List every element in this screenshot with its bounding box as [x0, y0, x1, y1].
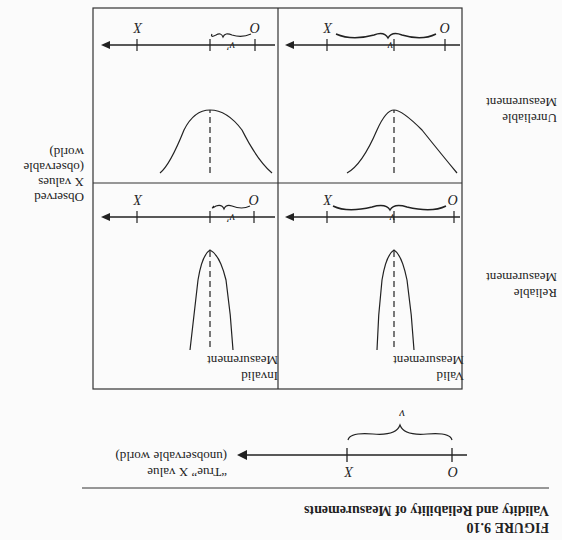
figure-title: Validity and Reliability of Measurements: [303, 503, 549, 518]
arrowhead-icon: [101, 41, 110, 49]
narrow-distribution-curve: [377, 250, 414, 350]
o-label: O: [250, 20, 260, 35]
brace-icon: [212, 205, 250, 209]
x-label: X: [133, 20, 143, 35]
wide-distribution-curve: [347, 110, 457, 173]
o-label: O: [448, 192, 458, 207]
panel-invalid-unreliable: O X v′: [101, 20, 275, 173]
panel-valid-unreliable: O X v: [285, 20, 460, 173]
arrowhead-icon: [237, 450, 247, 460]
diagram-canvas: FIGURE 9.10 Validity and Reliability of …: [0, 0, 562, 540]
brace-icon: [348, 425, 452, 440]
figure-number: FIGURE 9.10: [467, 520, 549, 535]
o-label: O: [249, 192, 259, 207]
panel-invalid-reliable: O X v′: [101, 192, 275, 350]
v-prime-label: v′: [227, 211, 235, 225]
observed-label-line3: (observable: [23, 160, 84, 175]
brace-icon: [212, 34, 252, 37]
observed-label-line2: X values: [38, 175, 84, 190]
narrow-distribution-curve: [190, 250, 233, 350]
brace-icon: [336, 34, 436, 38]
brace-icon: [333, 206, 446, 210]
x-label: X: [323, 192, 333, 207]
v-prime-label: v′: [227, 39, 235, 53]
v-label: v: [399, 407, 405, 422]
o-label: O: [440, 20, 450, 35]
panel-valid-reliable: O X v: [285, 192, 460, 350]
observed-label-line4: world): [49, 145, 84, 160]
invalid-header-line2: Measurement: [207, 353, 278, 368]
true-value-line: O X v “True” X value (unobservable world…: [115, 407, 467, 480]
x-label: X: [344, 464, 354, 479]
figure-9-10: FIGURE 9.10 Validity and Reliability of …: [0, 0, 562, 540]
x-label: X: [133, 192, 143, 207]
valid-header-line1: Valid: [436, 369, 464, 384]
o-label: O: [448, 464, 458, 479]
reliable-header-line1: Reliable: [513, 286, 557, 301]
v-label: v: [387, 39, 393, 53]
x-label: X: [323, 20, 333, 35]
invalid-header-line1: Invalid: [241, 369, 278, 384]
arrowhead-icon: [285, 213, 294, 221]
unobservable-label: (unobservable world): [115, 449, 227, 464]
wide-distribution-curve: [160, 110, 272, 173]
arrowhead-icon: [285, 41, 294, 49]
v-label: v: [389, 211, 395, 225]
valid-header-line2: Measurement: [393, 353, 464, 368]
observed-label-line1: Observed: [34, 190, 84, 205]
unreliable-header-line2: Measurement: [486, 95, 557, 110]
true-value-label: “True” X value: [147, 465, 227, 480]
unreliable-header-line1: Unreliable: [502, 111, 557, 126]
reliable-header-line2: Measurement: [486, 270, 557, 285]
arrowhead-icon: [101, 213, 110, 221]
